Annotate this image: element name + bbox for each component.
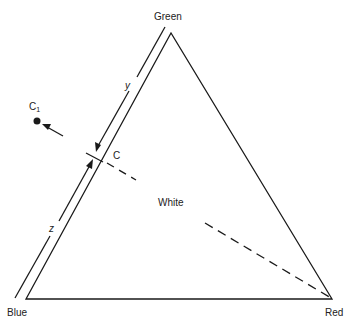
arrowhead-z-icon [86,159,93,169]
segment-z-arrow-line [59,165,90,221]
point-label-c1: C1 [29,101,40,113]
vertex-label-red: Red [325,307,343,318]
color-triangle-diagram: Green Blue Red White C C1 y z [0,0,356,327]
point-c1-arrow-line [47,127,63,136]
vertex-label-green: Green [154,11,182,22]
segment-label-y: y [124,80,131,91]
dashed-line-to-red [205,223,331,298]
point-c-tick [86,153,103,162]
segment-z-line-lower [15,236,50,298]
segment-label-z: z [48,223,54,234]
color-triangle [26,33,332,299]
point-label-c: C [113,150,120,161]
dashed-line-c-segment [107,163,136,180]
center-label-white: White [158,197,184,208]
point-c1-dot [34,118,41,125]
vertex-label-blue: Blue [7,307,27,318]
